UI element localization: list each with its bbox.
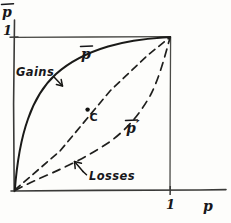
hand-drawn-graph: p 1 1 p Gains p C p ′ Losses — [0, 0, 231, 223]
gridline-top — [15, 37, 171, 38]
losses-label: Losses — [89, 169, 135, 183]
y-axis — [14, 20, 15, 192]
y-axis-label-overbar — [2, 4, 14, 5]
y-axis-label-group: p — [2, 4, 14, 20]
upper-curve-label-group: p — [81, 46, 93, 62]
lower-curve-label-prime: ′ — [136, 118, 140, 134]
gains-label: Gains — [16, 65, 54, 79]
gridline-right — [170, 37, 171, 190]
upper-curve-label-overbar — [81, 46, 93, 47]
figure-container: p 1 1 p Gains p C p ′ Losses — [0, 0, 231, 223]
y-tick-label-1: 1 — [3, 23, 12, 38]
lower-curve-label: p — [126, 120, 136, 136]
x-axis-label: p — [203, 198, 213, 214]
upper-curve-label: p — [81, 46, 91, 62]
y-axis-label: p — [2, 4, 12, 20]
lower-curve-label-group: p ′ — [126, 118, 141, 136]
point-c-label: C — [90, 111, 98, 124]
x-tick-label-1: 1 — [166, 197, 175, 212]
